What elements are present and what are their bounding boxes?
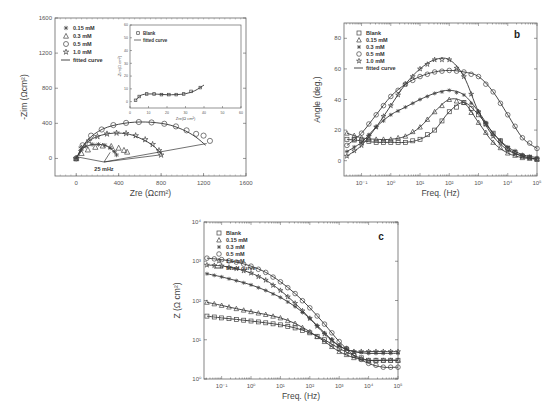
x-axis-label: Freq. (Hz) [282, 391, 320, 401]
data-point [204, 262, 209, 267]
series-Blank [345, 101, 539, 162]
x-tick-label: 10⁻¹ [356, 180, 368, 186]
data-point [264, 288, 268, 292]
x-tick-label: 10⁵ [532, 180, 542, 186]
data-point [469, 101, 473, 105]
series-Blank [205, 314, 400, 362]
data-point [389, 113, 393, 117]
data-point [278, 295, 282, 299]
data-point [194, 131, 199, 136]
y-tick-label: 80 [334, 35, 341, 41]
inset-x-tick-label: 50 [221, 111, 225, 115]
legend-marker-asterisk [357, 45, 361, 49]
inset-y-tick-label: 20 [124, 74, 128, 78]
y-tick-label: 10² [192, 298, 201, 304]
x-tick-label: 0 [75, 180, 79, 186]
data-point [116, 145, 121, 150]
data-point [114, 153, 119, 158]
legend-marker-triangle [217, 238, 222, 242]
data-point [433, 91, 437, 95]
x-tick-label: 10³ [335, 383, 344, 389]
data-point [123, 130, 129, 135]
y-tick-label: 10⁴ [192, 219, 202, 225]
inset-x-tick-label: 60 [239, 111, 243, 115]
legend-marker-asterisk [217, 245, 221, 249]
y-tick-label: 10¹ [192, 337, 201, 343]
data-point [212, 273, 216, 277]
data-point [242, 281, 246, 285]
chart-a-inset: 01020304050600102030405060Zre(Ω cm²)-Zim… [117, 23, 243, 121]
inset-legend-label: fitted curve [143, 38, 168, 43]
chart-c: 10⁻¹10⁰10¹10²10³10⁴10⁵10⁰10¹10²10³10⁴Fre… [172, 219, 403, 401]
x-tick-label: 1600 [239, 180, 253, 186]
legend-marker-triangle [64, 33, 69, 38]
chart-b: 10⁻¹10⁰10¹10²10³10⁴10⁵020406080Freq. (Hz… [312, 23, 542, 198]
legend-label: 1.0 mM [366, 58, 385, 64]
legend-marker-star [63, 49, 68, 54]
legend-marker-square [357, 31, 361, 35]
y-tick-label: 20 [334, 127, 341, 133]
y-tick-label: 10⁰ [192, 376, 202, 382]
y-tick-label: 1200 [39, 50, 53, 56]
data-point [205, 272, 209, 276]
data-point [271, 292, 275, 296]
x-tick-label: 10⁴ [503, 180, 513, 186]
fit-curve [347, 70, 537, 148]
data-point [411, 101, 415, 105]
legend-label: 1.0 mM [73, 49, 92, 55]
data-point [256, 286, 260, 290]
y-tick-label: 800 [42, 85, 53, 91]
data-point [418, 98, 422, 102]
inset-y-tick-label: 40 [124, 49, 128, 53]
y-tick-label: 400 [42, 120, 53, 126]
series-03mM [205, 272, 400, 356]
y-tick-label: 0 [338, 158, 342, 164]
data-point [150, 141, 156, 146]
legend-marker-circle [357, 52, 362, 57]
data-point [227, 277, 231, 281]
data-point [220, 275, 224, 279]
inset-x-tick-label: 0 [129, 111, 131, 115]
legend-label: Blank [226, 230, 242, 236]
data-point [96, 142, 101, 147]
data-point [345, 131, 350, 135]
legend-label: fitted curve [366, 65, 396, 71]
data-point [447, 88, 451, 92]
data-point [158, 152, 164, 157]
x-tick-label: 10² [445, 180, 454, 186]
legend-label: fitted curve [73, 57, 103, 63]
data-point [462, 93, 466, 97]
data-point [249, 283, 253, 287]
data-point [396, 109, 400, 113]
legend-marker-triangle [357, 38, 362, 42]
figure: 040080012001600040080012001600Zre (Ωcm²)… [0, 0, 553, 415]
data-point [403, 105, 407, 109]
chart-a: 040080012001600040080012001600Zre (Ωcm²)… [19, 15, 253, 198]
x-tick-label: 10⁻¹ [216, 383, 228, 389]
inset-y-label: -Zim(Ω cm²) [117, 55, 122, 77]
legend-marker-asterisk [64, 26, 68, 30]
x-tick-label: 10³ [474, 180, 483, 186]
annotation-arrow [78, 157, 104, 162]
legend-label: 0.5 mM [366, 51, 385, 57]
panel-label: b [514, 29, 520, 40]
data-point [440, 103, 445, 107]
x-tick-label: 1200 [197, 180, 211, 186]
inset-y-tick-label: 30 [124, 62, 128, 66]
annotation-arrow [104, 155, 160, 162]
inset-y-tick-label: 10 [124, 87, 128, 91]
inset-x-tick-label: 20 [165, 111, 169, 115]
x-tick-label: 10⁰ [247, 383, 257, 389]
legend-label: 0.3 mM [226, 244, 245, 250]
data-point [93, 144, 98, 149]
legend-marker-star [357, 58, 362, 63]
y-tick-label: 1600 [39, 15, 53, 21]
inset-x-label: Zre(Ω cm²) [176, 116, 196, 121]
inset-x-tick-label: 10 [147, 111, 151, 115]
y-axis-label: -Zim (Ωcm²) [19, 74, 29, 120]
inset-x-tick-label: 30 [184, 111, 188, 115]
y-tick-label: 60 [334, 66, 341, 72]
x-axis-label: Zre (Ωcm²) [130, 188, 171, 198]
legend-label: Blank [366, 30, 382, 36]
x-tick-label: 10¹ [276, 383, 285, 389]
